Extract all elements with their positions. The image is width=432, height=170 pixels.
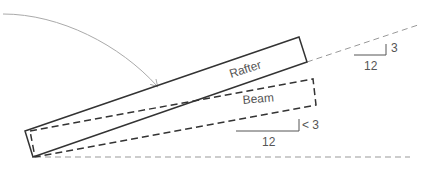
pitch-lower-run: 12 [262,135,276,149]
pitch-upper-rise: 3 [391,41,398,55]
pitch-indicator-upper: 3 12 [354,41,398,73]
pitch-upper-run: 12 [364,59,378,73]
pitch-indicator-lower: < 3 12 [236,118,319,149]
rafter-label: Rafter [228,57,263,80]
rafter-slope-extension [307,25,418,62]
curved-arrow-icon [3,14,157,86]
beam-label: Beam [242,90,274,107]
rafter-beam-diagram: Rafter Beam 3 12 < 3 12 [0,0,432,170]
pitch-lower-rise: < 3 [302,118,319,132]
